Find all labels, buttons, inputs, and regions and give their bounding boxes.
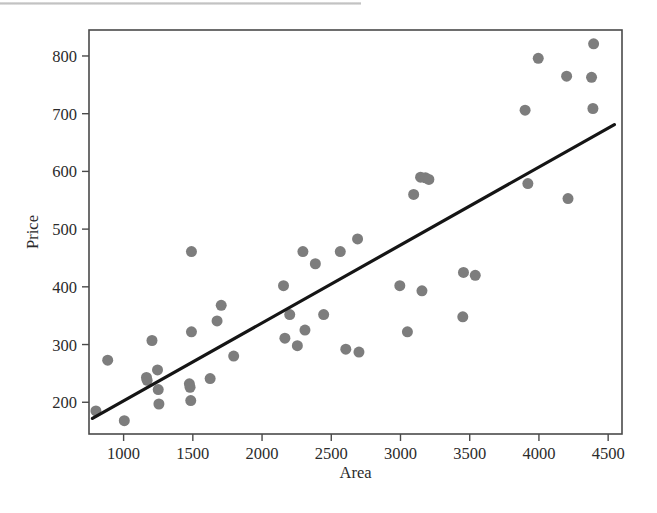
x-tick-label: 2500: [315, 444, 348, 463]
data-point: [587, 103, 598, 114]
data-point: [310, 258, 321, 269]
data-point: [146, 335, 157, 346]
data-point: [216, 300, 227, 311]
data-point: [402, 326, 413, 337]
data-point: [297, 246, 308, 257]
y-tick-label: 300: [52, 336, 77, 355]
data-point: [228, 351, 239, 362]
data-point: [588, 38, 599, 49]
data-point: [353, 347, 364, 358]
data-point: [416, 285, 427, 296]
data-point: [186, 246, 197, 257]
scatter-plot-figure: 200300400500600700800 100015002000250030…: [0, 0, 657, 513]
y-axis-ticks: 200300400500600700800: [52, 47, 89, 412]
y-tick-label: 600: [52, 162, 77, 181]
data-point: [102, 355, 113, 366]
y-tick-label: 800: [52, 47, 77, 66]
data-point: [212, 315, 223, 326]
x-tick-label: 3000: [384, 444, 417, 463]
data-point: [563, 193, 574, 204]
y-tick-label: 200: [52, 393, 77, 412]
x-tick-label: 1500: [176, 444, 209, 463]
data-point: [185, 382, 196, 393]
y-tick-label: 500: [52, 220, 77, 239]
data-point: [205, 373, 216, 384]
data-point: [318, 309, 329, 320]
data-point: [278, 280, 289, 291]
data-point: [186, 326, 197, 337]
data-point: [586, 72, 597, 83]
x-tick-label: 3500: [453, 444, 486, 463]
y-tick-label: 400: [52, 278, 77, 297]
data-point: [153, 398, 164, 409]
data-point: [292, 340, 303, 351]
data-point: [457, 311, 468, 322]
data-point: [279, 333, 290, 344]
data-point: [394, 280, 405, 291]
data-point: [458, 267, 469, 278]
data-point: [340, 344, 351, 355]
data-point: [561, 71, 572, 82]
data-point: [533, 53, 544, 64]
plot-frame: [89, 30, 622, 434]
data-point: [152, 364, 163, 375]
data-point: [119, 415, 130, 426]
data-point: [185, 395, 196, 406]
data-point: [470, 270, 481, 281]
data-point: [423, 174, 434, 185]
data-point: [522, 178, 533, 189]
data-point: [352, 233, 363, 244]
data-point: [153, 384, 164, 395]
data-point: [299, 325, 310, 336]
data-point: [408, 189, 419, 200]
data-point: [335, 246, 346, 257]
x-axis-ticks: 10001500200025003000350040004500: [107, 434, 625, 463]
y-tick-label: 700: [52, 105, 77, 124]
plot-canvas: 200300400500600700800 100015002000250030…: [0, 0, 657, 513]
x-tick-label: 4000: [522, 444, 555, 463]
x-axis-title: Area: [339, 463, 372, 482]
x-tick-label: 4500: [592, 444, 625, 463]
y-axis-title: Price: [23, 215, 42, 249]
data-point: [520, 105, 531, 116]
x-tick-label: 2000: [246, 444, 279, 463]
x-tick-label: 1000: [107, 444, 140, 463]
